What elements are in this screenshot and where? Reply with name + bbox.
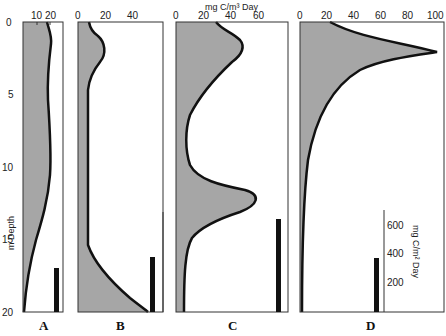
d-tick-100: 100	[427, 10, 444, 21]
d-tick-0: 0	[297, 10, 303, 21]
depth-tick-10: 10	[2, 162, 14, 173]
panel-c-bar	[276, 219, 281, 312]
b-tick-0: 0	[75, 10, 81, 21]
depth-tick-20: 20	[2, 307, 14, 318]
depth-tick-0: 0	[6, 17, 12, 28]
c-tick-0: 0	[173, 10, 179, 21]
c-tick-60: 60	[253, 10, 265, 21]
d-tick-20: 20	[321, 10, 333, 21]
a-tick-20: 20	[45, 10, 57, 21]
panel-a-bar	[54, 268, 59, 312]
bar-scale-400: 400	[387, 248, 404, 259]
panel-c: 0 20 40 60 C	[173, 10, 288, 333]
productivity-depth-chart: mg C/m³ Day m Depth 0 5 10 15 20 10 20 A…	[0, 0, 446, 336]
depth-ticks: 0 5 10 15 20	[2, 17, 14, 318]
panel-a-area	[23, 22, 51, 312]
c-tick-20: 20	[198, 10, 210, 21]
d-tick-60: 60	[375, 10, 387, 21]
bar-scale-600: 600	[387, 220, 404, 231]
panel-d-label: D	[366, 318, 375, 333]
panel-b-label: B	[116, 318, 125, 333]
panel-c-label: C	[228, 318, 237, 333]
panel-a: 10 20 A	[23, 10, 63, 333]
panel-b-bar	[150, 257, 155, 312]
d-tick-80: 80	[402, 10, 414, 21]
a-tick-10: 10	[31, 10, 43, 21]
c-tick-40: 40	[225, 10, 237, 21]
b-tick-20: 20	[100, 10, 112, 21]
d-tick-40: 40	[348, 10, 360, 21]
panel-d: 0 20 40 60 80 100 600 400 200 mg C/m² Da…	[297, 10, 444, 333]
panel-d-bar	[374, 258, 379, 312]
b-tick-40: 40	[127, 10, 139, 21]
bar-axis-label: mg C/m² Day	[411, 225, 421, 279]
panel-a-label: A	[39, 318, 49, 333]
depth-tick-15: 15	[2, 234, 14, 245]
bar-scale-200: 200	[387, 277, 404, 288]
panel-b: 0 20 40 B	[75, 10, 163, 333]
depth-tick-5: 5	[8, 89, 14, 100]
panel-c-area	[176, 22, 256, 312]
